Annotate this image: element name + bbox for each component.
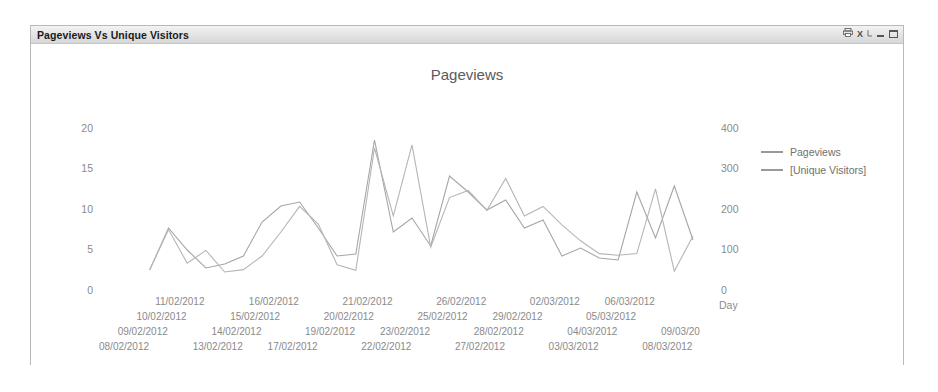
minimize-button[interactable] bbox=[877, 30, 885, 38]
export-arrow-icon[interactable] bbox=[867, 29, 873, 39]
window-titlebar: Pageviews Vs Unique Visitors X bbox=[31, 26, 903, 44]
x-axis-tick-label: 17/02/2012 bbox=[268, 341, 318, 352]
x-axis-tick-label: 25/02/2012 bbox=[417, 311, 467, 322]
left-axis-tick-20: 20 bbox=[67, 122, 93, 134]
x-axis-tick-label: 21/02/2012 bbox=[343, 296, 393, 307]
x-axis-tick-label: 16/02/2012 bbox=[249, 296, 299, 307]
legend-label-unique-visitors: [Unique Visitors] bbox=[790, 164, 866, 176]
x-axis-tick-label: 03/03/2012 bbox=[549, 341, 599, 352]
chart-legend: Pageviews [Unique Visitors] bbox=[761, 144, 866, 180]
x-axis-tick-label: 26/02/2012 bbox=[436, 296, 486, 307]
x-axis-tick-label: 09/03/20 bbox=[661, 326, 700, 337]
left-axis-tick-15: 15 bbox=[67, 162, 93, 174]
x-axis-tick-label: 15/02/2012 bbox=[230, 311, 280, 322]
legend-swatch-unique-visitors bbox=[761, 169, 783, 171]
x-axis-tick-label: 06/03/2012 bbox=[605, 296, 655, 307]
right-axis-tick-300: 300 bbox=[721, 162, 739, 174]
right-axis-tick-400: 400 bbox=[721, 122, 739, 134]
legend-item-unique-visitors: [Unique Visitors] bbox=[761, 162, 866, 177]
chart-canvas: Pageviews 20 15 10 5 0 400 300 200 100 0… bbox=[31, 44, 903, 365]
x-axis-tick-label: 11/02/2012 bbox=[155, 296, 204, 307]
x-axis-tick-label: 14/02/2012 bbox=[211, 326, 261, 337]
print-icon[interactable] bbox=[843, 28, 853, 39]
window-controls: X bbox=[843, 28, 898, 39]
x-axis-tick-label: 02/03/2012 bbox=[530, 296, 580, 307]
left-axis-tick-0: 0 bbox=[67, 284, 93, 296]
x-axis-tick-label: 10/02/2012 bbox=[136, 311, 186, 322]
x-axis-tick-label: 05/03/2012 bbox=[586, 311, 636, 322]
window-title: Pageviews Vs Unique Visitors bbox=[31, 29, 189, 41]
plot-lines bbox=[131, 120, 693, 292]
x-axis-tick-label: 04/03/2012 bbox=[567, 326, 617, 337]
line-series bbox=[150, 145, 693, 272]
chart-window: Pageviews Vs Unique Visitors X Pageviews… bbox=[30, 25, 904, 365]
x-axis-tick-label: 13/02/2012 bbox=[193, 341, 243, 352]
line-series bbox=[150, 140, 693, 270]
legend-swatch-pageviews bbox=[761, 151, 783, 153]
legend-item-pageviews: Pageviews bbox=[761, 144, 866, 159]
x-axis-tick-label: 08/02/2012 bbox=[99, 341, 149, 352]
legend-label-pageviews: Pageviews bbox=[790, 146, 841, 158]
x-axis-tick-label: 22/02/2012 bbox=[361, 341, 411, 352]
x-axis-tick-label: 29/02/2012 bbox=[492, 311, 542, 322]
x-axis-title: Day bbox=[719, 299, 738, 311]
left-axis-tick-5: 5 bbox=[67, 243, 93, 255]
maximize-button[interactable] bbox=[889, 30, 898, 38]
left-axis-tick-10: 10 bbox=[67, 203, 93, 215]
x-axis-tick-label: 20/02/2012 bbox=[324, 311, 374, 322]
x-axis-tick-label: 28/02/2012 bbox=[474, 326, 524, 337]
x-axis-tick-label: 19/02/2012 bbox=[305, 326, 355, 337]
x-axis-tick-label: 09/02/2012 bbox=[118, 326, 168, 337]
right-axis-tick-200: 200 bbox=[721, 203, 739, 215]
right-axis-tick-100: 100 bbox=[721, 243, 739, 255]
x-axis-tick-label: 23/02/2012 bbox=[380, 326, 430, 337]
excel-export-icon[interactable]: X bbox=[857, 29, 863, 39]
chart-title: Pageviews bbox=[31, 66, 903, 83]
x-axis-tick-label: 27/02/2012 bbox=[455, 341, 505, 352]
x-axis-tick-label: 08/03/2012 bbox=[642, 341, 692, 352]
right-axis-tick-0: 0 bbox=[721, 284, 727, 296]
series-paths bbox=[131, 120, 693, 292]
